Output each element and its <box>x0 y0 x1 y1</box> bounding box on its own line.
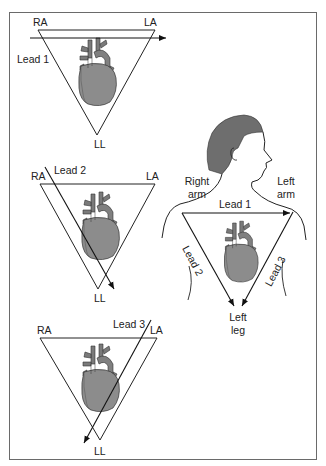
body-lead-1-label: Lead 1 <box>219 199 251 210</box>
panel3-la-label: LA <box>150 325 163 336</box>
left-leg-label-line2: leg <box>221 325 255 336</box>
body-diagram <box>162 115 306 306</box>
panel1-ll-label: LL <box>94 139 106 150</box>
lead-1-panel <box>30 30 166 135</box>
right-arm-label-line1: Right <box>180 176 214 187</box>
panel1-la-label: LA <box>144 17 157 28</box>
hair <box>207 115 263 174</box>
panel2-la-label: LA <box>146 171 159 182</box>
lead-3-panel <box>40 320 157 443</box>
left-arm-label-line1: Left <box>269 176 303 187</box>
panel2-lead-label: Lead 2 <box>54 165 86 176</box>
panel1-ra-label: RA <box>33 17 48 28</box>
right-arm-label-line2: arm <box>180 189 214 200</box>
panel2-ll-label: LL <box>94 293 106 304</box>
panel1-lead-label: Lead 1 <box>17 54 49 65</box>
left-arm-label-line2: arm <box>269 189 303 200</box>
panel3-lead-label: Lead 3 <box>113 319 145 330</box>
panel3-ra-label: RA <box>37 325 52 336</box>
left-leg-label-line1: Left <box>221 312 255 323</box>
panel3-ll-label: LL <box>94 446 106 457</box>
panel2-ra-label: RA <box>31 171 46 182</box>
einthoven-diagram <box>0 0 326 466</box>
lead-2-panel <box>40 167 155 289</box>
